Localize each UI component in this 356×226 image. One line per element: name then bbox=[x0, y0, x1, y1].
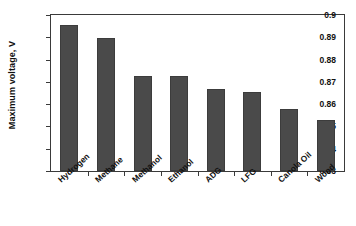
x-axis-tick bbox=[124, 171, 125, 176]
bar bbox=[97, 38, 115, 171]
y-axis-tick-label: 0.88 bbox=[296, 55, 336, 65]
x-axis-tick bbox=[234, 171, 235, 176]
y-axis-tick bbox=[46, 82, 51, 83]
y-axis-tick bbox=[46, 104, 51, 105]
y-axis-tick-label: 0.86 bbox=[296, 99, 336, 109]
y-axis-tick bbox=[46, 171, 51, 172]
bar bbox=[60, 25, 78, 171]
x-axis-tick bbox=[198, 171, 199, 176]
y-axis-tick bbox=[46, 37, 51, 38]
y-axis-tick-label: 0.89 bbox=[296, 32, 336, 42]
y-axis-tick bbox=[46, 126, 51, 127]
bar bbox=[134, 76, 152, 171]
x-axis-tick bbox=[88, 171, 89, 176]
bar bbox=[207, 89, 225, 171]
y-axis-tick-label: 0.87 bbox=[296, 77, 336, 87]
y-axis-title: Maximum voltage, V bbox=[7, 10, 17, 160]
x-axis-tick bbox=[271, 171, 272, 176]
y-axis-tick bbox=[46, 149, 51, 150]
x-axis-tick bbox=[161, 171, 162, 176]
bar bbox=[170, 76, 188, 171]
y-axis-tick bbox=[46, 15, 51, 16]
y-axis-tick-label: 0.9 bbox=[296, 10, 336, 20]
y-axis-title-container: Maximum voltage, V bbox=[0, 0, 16, 180]
plot-area: 0.90.890.880.870.860.850.840.83 bbox=[50, 14, 345, 172]
bar-chart-figure: Maximum voltage, V 0.90.890.880.870.860.… bbox=[0, 0, 356, 226]
y-axis-tick bbox=[46, 60, 51, 61]
x-axis-tick bbox=[307, 171, 308, 176]
bar bbox=[243, 92, 261, 171]
